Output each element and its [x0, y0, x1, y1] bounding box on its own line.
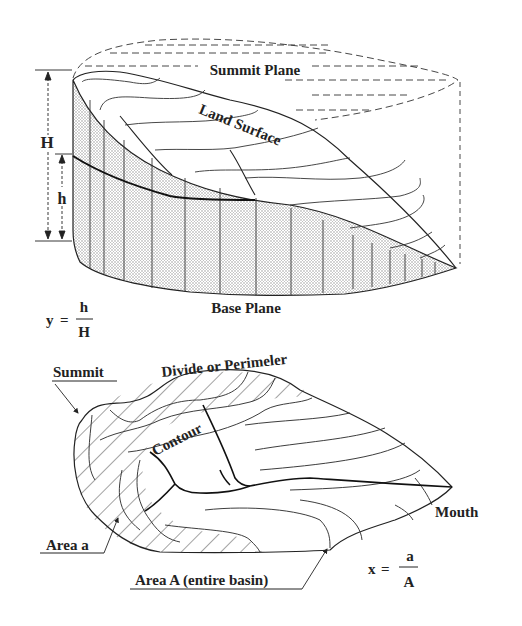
summit-arrow-icon	[55, 384, 78, 413]
equals-sign-bottom: =	[381, 561, 390, 577]
land-surface-label: Land Surface	[197, 101, 284, 149]
equals-sign: =	[60, 312, 69, 328]
x-variable: x	[368, 561, 376, 577]
area-A-label: Area A (entire basin)	[135, 572, 268, 589]
basin-side-face	[73, 80, 456, 295]
bottom-panel: Summit Divide or Perimeler Contour Mouth…	[40, 351, 479, 590]
x-denominator: A	[404, 574, 415, 590]
channel-network	[145, 405, 452, 511]
y-denominator: H	[78, 324, 90, 340]
hypsometric-diagram: Summit Plane	[0, 0, 522, 626]
y-numerator: h	[80, 299, 89, 315]
summit-label: Summit	[53, 364, 104, 380]
total-height-label: H	[40, 133, 53, 152]
mouth-label: Mouth	[435, 504, 479, 520]
top-panel: Summit Plane	[35, 39, 460, 340]
partial-height-label: h	[58, 190, 67, 207]
total-height-dimension	[35, 70, 72, 241]
x-ratio-formula: x = a A	[368, 548, 418, 590]
summit-plane-label: Summit Plane	[210, 62, 301, 78]
x-numerator: a	[406, 548, 414, 564]
y-variable: y	[46, 312, 54, 328]
area-A-arrow-icon	[302, 549, 327, 589]
area-a-hatched	[74, 372, 315, 552]
base-plane-label: Base Plane	[211, 300, 281, 316]
area-a-label: Area a	[46, 537, 89, 553]
y-ratio-formula: y = h H	[46, 299, 93, 340]
